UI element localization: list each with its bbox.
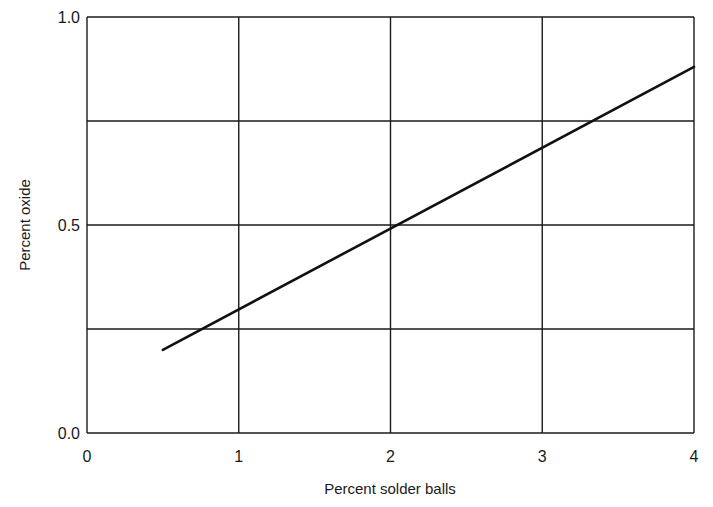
x-tick-label: 2 xyxy=(386,448,395,465)
series-line xyxy=(163,67,694,350)
y-axis-ticks: 0.00.51.0 xyxy=(58,9,80,442)
y-tick-label: 0.5 xyxy=(58,217,80,234)
x-axis-ticks: 01234 xyxy=(83,448,699,465)
data-series xyxy=(163,67,694,350)
line-chart: 01234 0.00.51.0 Percent solder balls Per… xyxy=(0,0,713,507)
x-tick-label: 0 xyxy=(83,448,92,465)
x-tick-label: 1 xyxy=(234,448,243,465)
y-tick-label: 0.0 xyxy=(58,425,80,442)
y-axis-label: Percent oxide xyxy=(16,179,33,271)
x-tick-label: 3 xyxy=(538,448,547,465)
x-tick-label: 4 xyxy=(690,448,699,465)
grid-lines xyxy=(87,17,694,433)
y-tick-label: 1.0 xyxy=(58,9,80,26)
x-axis-label: Percent solder balls xyxy=(324,480,456,497)
